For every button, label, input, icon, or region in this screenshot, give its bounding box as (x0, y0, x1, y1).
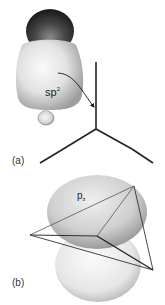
sp2-main-lobe (16, 40, 83, 110)
trigonal-framework-a-lower (40, 149, 153, 163)
sp2-label-base: sp (45, 86, 57, 98)
panel-b (30, 175, 153, 302)
sp2-small-lobe (38, 111, 54, 125)
sp2-label-superscript: 2 (57, 86, 60, 92)
pz-label-subscript: z (83, 196, 86, 202)
pz-upper-lobe (47, 175, 147, 249)
orbital-figure: sp2 pz (a) (b) (0, 0, 165, 305)
pz-orbital-label: pz (77, 191, 86, 202)
orbital-diagram-svg (0, 0, 165, 305)
sp2-orbital-label: sp2 (45, 86, 60, 98)
panel-a (16, 9, 153, 163)
panel-a-label: (a) (12, 156, 24, 166)
panel-b-label: (b) (12, 278, 24, 288)
